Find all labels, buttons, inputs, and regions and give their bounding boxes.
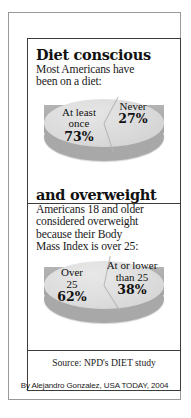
panel-overweight: and overweight Americans 18 and older co… [36,187,172,334]
pie-chart-bmi: Over 25 62% At or lower than 25 38% [36,257,174,333]
pie2-value-38: 38% [94,284,170,296]
panel1-headline: Diet conscious [36,47,172,63]
pie2-slice-label-over-25: Over 25 62% [46,267,98,303]
pie2-label-line-4: than 25 [116,271,149,283]
pie1-label-line-1: At least [62,106,96,118]
pie1-label-never: Never [120,100,147,112]
chart-frame: Diet conscious Most Americans have been … [27,38,181,391]
byline-credit: By Alejandro Gonzalez, USA TODAY, 2004 [8,381,181,390]
pie2-value-62: 62% [46,291,98,303]
infographic-page: Diet conscious Most Americans have been … [0,0,191,418]
panel1-subtext-line-2: been on a diet: [36,76,172,88]
pie1-label-line-2: once [69,117,90,129]
chart-content: Diet conscious Most Americans have been … [28,39,180,390]
pie1-value-27: 27% [108,113,158,125]
panel2-headline: and overweight [36,187,172,203]
panel2-subtext-line-2: considered overweight [36,216,172,228]
pie2-label-line-2: 25 [67,278,78,290]
pie1-value-73: 73% [48,131,110,143]
pie1-slice-label-never: Never 27% [108,101,158,125]
source-divider [28,350,180,351]
pie2-labels: Over 25 62% At or lower than 25 38% [36,257,174,333]
panel1-subtext: Most Americans have been on a diet: [36,64,172,89]
pie2-slice-label-at-or-lower: At or lower than 25 38% [94,260,170,296]
panel-diet-conscious: Diet conscious Most Americans have been … [36,47,172,171]
panel2-subtext-line-4: Mass Index is over 25: [36,241,172,253]
source-note: Source: NPD's DIET study [28,357,180,368]
panel-divider [28,203,180,204]
pie1-slice-label-at-least-once: At least once 73% [48,107,110,143]
outer-border-frame: Diet conscious Most Americans have been … [8,12,181,400]
pie1-labels: At least once 73% Never 27% [36,95,174,171]
pie2-label-line-1: Over [61,266,83,278]
pie2-label-line-3: At or lower [107,259,158,271]
pie-chart-diet: At least once 73% Never 27% [36,95,174,171]
panel2-subtext: Americans 18 and older considered overwe… [36,204,172,254]
